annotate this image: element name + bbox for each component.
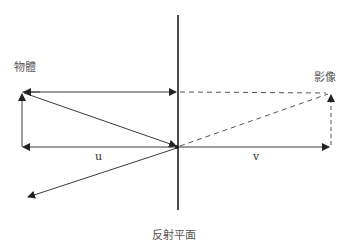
- reflected-ray: [28, 148, 177, 197]
- virtual-ray-horizontal: [180, 92, 326, 93]
- object-distance-label: u: [95, 150, 102, 163]
- mirror-reflection-diagram: [0, 0, 356, 244]
- incident-ray-diagonal: [24, 93, 176, 146]
- incidence-point: [175, 145, 179, 149]
- image-distance-label: v: [253, 150, 259, 163]
- object-label: 物體: [14, 58, 36, 74]
- mirror-label: 反射平面: [152, 226, 196, 242]
- image-label: 影像: [314, 68, 336, 84]
- virtual-ray-diagonal: [180, 94, 328, 146]
